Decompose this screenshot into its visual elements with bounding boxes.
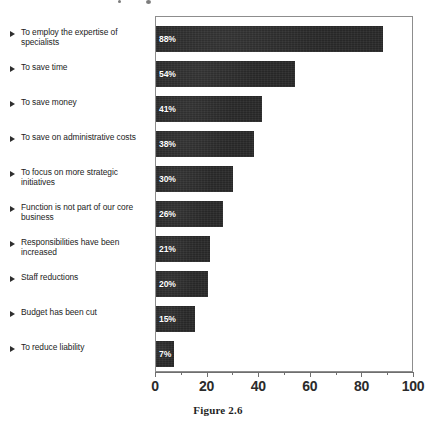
- x-axis-minor-tick: [284, 372, 285, 375]
- x-axis-tick-label: 80: [354, 378, 369, 394]
- bar-value-label: 21%: [159, 244, 176, 254]
- category-label-text: To save money: [21, 97, 77, 107]
- bar-value-label: 26%: [159, 209, 176, 219]
- x-axis-tick: [155, 372, 156, 377]
- x-axis-tick: [361, 372, 362, 377]
- bar: 88%: [156, 26, 383, 52]
- bar-value-label: 20%: [159, 279, 176, 289]
- category-label-row: To save on administrative costs: [10, 132, 152, 142]
- bar: 20%: [156, 271, 208, 297]
- category-label-row: To save time: [10, 62, 152, 72]
- bar-value-label: 30%: [159, 174, 176, 184]
- category-label-list: To employ the expertise of specialistsTo…: [0, 16, 150, 372]
- category-label-row: Responsibilities have been increased: [10, 237, 152, 257]
- figure-caption: Figure 2.6: [0, 404, 436, 416]
- bar: 41%: [156, 96, 262, 122]
- bar: 30%: [156, 166, 233, 192]
- category-label-row: To employ the expertise of specialists: [10, 27, 152, 47]
- bar-value-label: 88%: [159, 34, 176, 44]
- triangle-right-icon: [10, 206, 15, 212]
- bar: 7%: [156, 341, 174, 367]
- triangle-right-icon: [10, 101, 15, 107]
- triangle-right-icon: [10, 136, 15, 142]
- figure-2-6: To employ the expertise of specialistsTo…: [0, 0, 436, 425]
- bar-value-label: 38%: [159, 139, 176, 149]
- category-label-row: Staff reductions: [10, 272, 152, 282]
- bar: 26%: [156, 201, 223, 227]
- bar-value-label: 54%: [159, 69, 176, 79]
- x-axis-tick: [310, 372, 311, 377]
- x-axis-tick: [207, 372, 208, 377]
- bar-value-label: 7%: [159, 349, 171, 359]
- bar-value-label: 15%: [159, 314, 176, 324]
- x-axis-minor-tick: [336, 372, 337, 375]
- triangle-right-icon: [10, 346, 15, 352]
- x-axis-tick: [258, 372, 259, 377]
- category-label-row: Function is not part of our core busines…: [10, 202, 152, 222]
- category-label-row: To focus on more strategic initiatives: [10, 167, 152, 187]
- x-axis-tick-label: 0: [151, 378, 159, 394]
- bar: 54%: [156, 61, 295, 87]
- category-label-text: Budget has been cut: [21, 307, 97, 317]
- x-axis-tick-label: 60: [302, 378, 317, 394]
- category-label-text: Responsibilities have been increased: [21, 237, 152, 257]
- category-label-row: Budget has been cut: [10, 307, 152, 317]
- bar: 15%: [156, 306, 195, 332]
- category-label-row: To reduce liability: [10, 342, 152, 352]
- bar: 21%: [156, 236, 210, 262]
- x-axis-tick-label: 100: [402, 378, 424, 394]
- category-label-text: Staff reductions: [21, 272, 78, 282]
- triangle-right-icon: [10, 241, 15, 247]
- bar: 38%: [156, 131, 254, 157]
- x-axis: 020406080100: [155, 372, 413, 373]
- x-axis-minor-tick: [387, 372, 388, 375]
- category-label-text: To employ the expertise of specialists: [21, 27, 152, 47]
- triangle-right-icon: [10, 31, 15, 37]
- x-axis-tick: [413, 372, 414, 377]
- x-axis-tick-label: 40: [251, 378, 266, 394]
- triangle-right-icon: [10, 311, 15, 317]
- triangle-right-icon: [10, 171, 15, 177]
- x-axis-minor-tick: [232, 372, 233, 375]
- triangle-right-icon: [10, 66, 15, 72]
- category-label-text: Function is not part of our core busines…: [21, 202, 152, 222]
- x-axis-minor-tick: [181, 372, 182, 375]
- category-label-text: To save time: [21, 62, 67, 72]
- triangle-right-icon: [10, 276, 15, 282]
- bar-value-label: 41%: [159, 104, 176, 114]
- chart-plot-area: 88%54%41%38%30%26%21%20%15%7%: [155, 16, 413, 372]
- x-axis-tick-label: 20: [199, 378, 214, 394]
- category-label-row: To save money: [10, 97, 152, 107]
- bar-container: 88%54%41%38%30%26%21%20%15%7%: [156, 17, 412, 371]
- category-label-text: To reduce liability: [21, 342, 84, 352]
- category-label-text: To focus on more strategic initiatives: [21, 167, 152, 187]
- category-label-text: To save on administrative costs: [21, 132, 136, 142]
